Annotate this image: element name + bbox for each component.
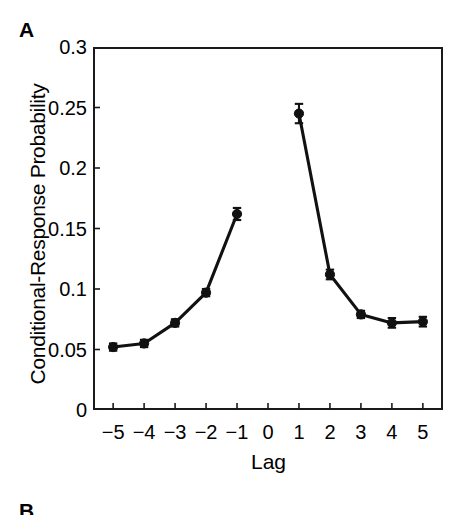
x-tick-label: 5 [406,422,440,442]
panel-label-b: B [19,500,34,515]
x-tick-label: −1 [220,422,254,442]
x-tick-label: −3 [158,422,192,442]
x-tick-label: −4 [127,422,161,442]
x-tick-label: −2 [189,422,223,442]
x-axis-tick-labels: −5−4−3−2−1012345 [0,0,470,480]
x-tick-label: 2 [313,422,347,442]
x-tick-label: 3 [344,422,378,442]
x-tick-label: 4 [375,422,409,442]
x-tick-label: 1 [282,422,316,442]
x-tick-label: 0 [251,422,285,442]
x-tick-label: −5 [96,422,130,442]
figure-panel-a: A Conditional-Response Probability Lag 0… [0,0,470,480]
